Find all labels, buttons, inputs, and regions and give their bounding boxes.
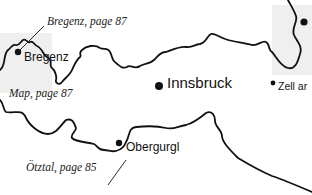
- otztal-leader-line: [108, 160, 126, 185]
- obergurgl-label: Obergurgl: [126, 141, 179, 153]
- map-page-reference: Map, page 87: [9, 88, 73, 100]
- salzburg-dot: [300, 18, 307, 25]
- otztal-page-reference: Ötztal, page 85: [26, 162, 97, 174]
- zell-am-see-dot: [271, 81, 276, 86]
- region-map: Bregenz, page 87 Map, page 87 Ötztal, pa…: [0, 0, 312, 195]
- obergurgl-dot: [116, 140, 122, 146]
- zell-am-see-label: Zell ar: [278, 81, 307, 92]
- bregenz-page-reference: Bregenz, page 87: [47, 16, 127, 28]
- innsbruck-label: Innsbruck: [167, 75, 232, 90]
- bregenz-dot: [15, 49, 21, 55]
- innsbruck-dot: [155, 82, 163, 90]
- bregenz-label: Bregenz: [24, 51, 69, 63]
- salzburg-inset-shade: [272, 5, 312, 75]
